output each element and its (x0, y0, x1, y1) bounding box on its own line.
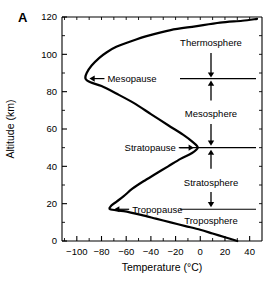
x-tick-label-20: 20 (220, 246, 231, 257)
y-tick-label-20: 20 (46, 198, 57, 209)
x-tick-label-0: 0 (198, 246, 203, 257)
stratosphere-arrow-up-head (208, 150, 214, 155)
x-tick-label--40: −40 (143, 246, 159, 257)
stratopause-label: Stratopause (125, 142, 176, 153)
atmosphere-temperature-profile-figure: A 020406080100120 −100−80−60−40−2002040 … (0, 0, 277, 284)
y-tick-label-120: 120 (41, 11, 57, 22)
chart-canvas: A 020406080100120 −100−80−60−40−2002040 … (0, 0, 277, 284)
tropopause-label: Tropopause (132, 204, 182, 215)
tropopause-arrowhead (114, 206, 119, 212)
y-tick-label-80: 80 (46, 86, 57, 97)
x-tick-label--60: −60 (118, 246, 134, 257)
y-tick-label-60: 60 (46, 123, 57, 134)
panel-label: A (18, 10, 28, 25)
x-tick-label-40: 40 (244, 246, 255, 257)
y-axis-major-ticks (62, 17, 67, 241)
layer-label-thermosphere: Thermosphere (180, 37, 242, 48)
mesopause-arrowhead (89, 76, 94, 82)
y-axis-tick-labels: 020406080100120 (41, 11, 57, 246)
x-axis-title: Temperature (°C) (122, 261, 203, 273)
stratosphere-arrow-down-head (208, 202, 214, 207)
mesosphere-arrow-up-head (208, 81, 214, 86)
stratopause-arrowhead (189, 145, 194, 151)
mesopause-label: Mesopause (107, 73, 156, 84)
y-axis-title: Altitude (km) (4, 100, 16, 159)
y-tick-label-100: 100 (41, 49, 57, 60)
y-tick-label-40: 40 (46, 161, 57, 172)
x-tick-label--20: −20 (168, 246, 184, 257)
thermosphere-arrow-head (208, 72, 214, 77)
y-tick-label-0: 0 (52, 235, 57, 246)
layer-label-mesosphere: Mesosphere (185, 108, 237, 119)
layer-label-troposphere: Troposphere (184, 215, 238, 226)
pause-annotations: MesopauseStratopauseTropopause (89, 73, 193, 215)
layer-label-stratosphere: Stratosphere (184, 177, 238, 188)
x-axis-tick-labels: −100−80−60−40−2002040 (66, 246, 255, 257)
mesosphere-arrow-down-head (208, 140, 214, 145)
layer-boundary-lines (180, 79, 256, 210)
x-tick-label--100: −100 (66, 246, 87, 257)
x-tick-label--80: −80 (93, 246, 109, 257)
